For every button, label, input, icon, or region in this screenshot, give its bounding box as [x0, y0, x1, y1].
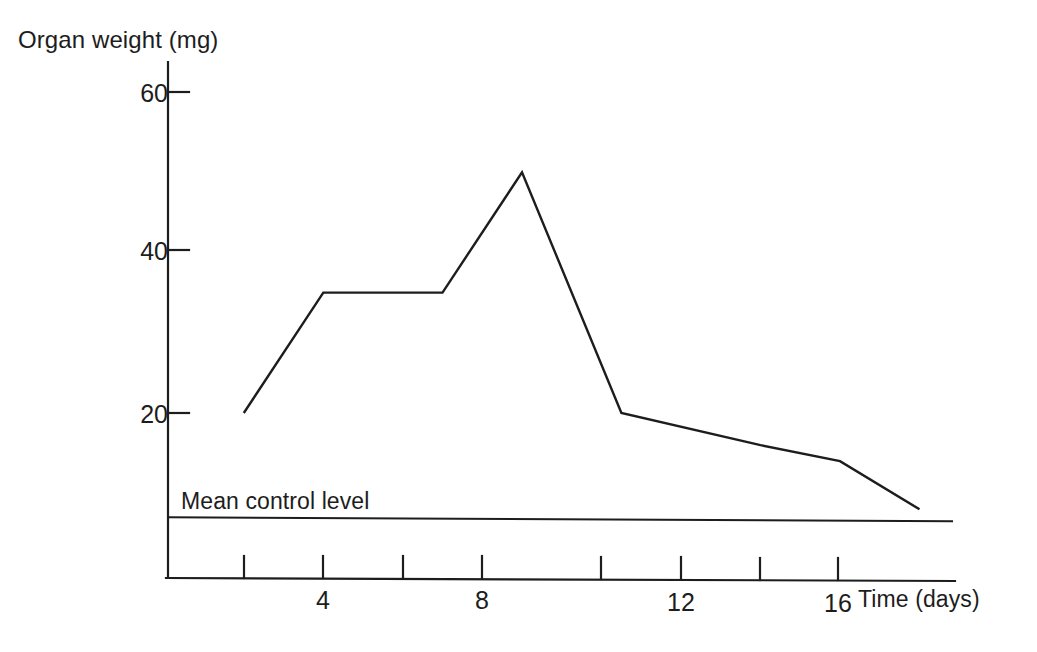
x-tick-label-4: 4: [298, 586, 348, 615]
y-tick-label-60: 60: [108, 79, 168, 108]
mean-control-level-line: [168, 517, 952, 521]
chart-figure: Organ weight (mg) Time (days) Mean contr…: [0, 0, 1037, 652]
y-axis-title: Organ weight (mg): [18, 28, 218, 52]
y-tick-label-20: 20: [108, 400, 168, 429]
mean-control-level-label: Mean control level: [181, 490, 369, 513]
organ-weight-data-line: [244, 172, 920, 509]
x-tick-label-8: 8: [457, 586, 507, 615]
x-tick-marks: [244, 556, 838, 580]
x-tick-label-12: 12: [656, 588, 706, 617]
x-axis-title: Time (days): [858, 588, 980, 611]
x-axis-line: [166, 578, 955, 581]
y-tick-label-40: 40: [108, 237, 168, 266]
y-tick-marks: [168, 92, 189, 413]
x-tick-label-16: 16: [813, 589, 863, 618]
